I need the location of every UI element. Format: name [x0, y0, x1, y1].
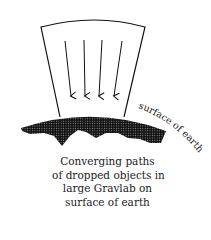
caption-line-2: of dropped objects in [0, 169, 211, 183]
earth-surface [21, 117, 166, 146]
gravlab-frame [41, 20, 145, 117]
caption-line-1: Converging paths [0, 155, 211, 169]
caption-line-3: large Gravlab on [0, 182, 211, 196]
arrow-path-1 [65, 41, 71, 96]
arrow-path-3 [99, 40, 102, 96]
arrow-path-4 [114, 41, 122, 96]
diagram-caption: Converging paths of dropped objects in l… [0, 155, 211, 207]
arrow-path-2 [84, 40, 85, 96]
caption-line-4: surface of earth [0, 196, 211, 208]
falling-object-paths [65, 40, 122, 96]
